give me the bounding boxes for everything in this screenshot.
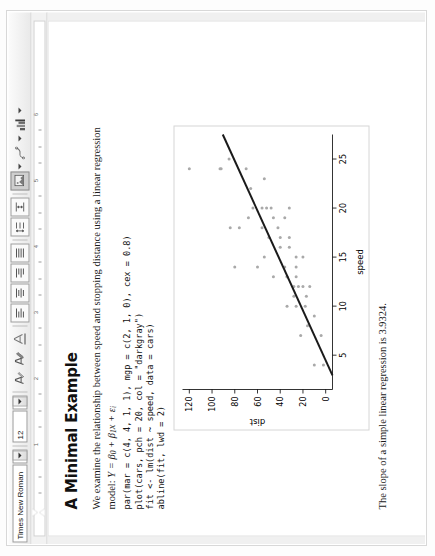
data-point — [294, 256, 297, 259]
data-point — [304, 295, 307, 298]
ruler-tick — [38, 130, 41, 131]
document-canvas[interactable]: A Minimal Example We examine the relatio… — [47, 12, 425, 544]
data-point — [260, 207, 263, 210]
figure-container: 510152025020406080100120speeddist — [173, 47, 369, 509]
data-point — [233, 265, 236, 268]
paragraph-spacing-icon — [14, 201, 25, 212]
ruler-tick — [38, 295, 41, 296]
data-point — [303, 305, 306, 308]
insert-image-dropdown-caret[interactable] — [18, 163, 21, 169]
ruler-tick — [38, 163, 41, 164]
x-tick-label: 25 — [338, 154, 347, 164]
horizontal-ruler[interactable]: 123456 — [31, 12, 47, 544]
ruler-number: 1 — [32, 442, 38, 445]
align-justify-button[interactable] — [10, 243, 29, 262]
left-indent-marker[interactable] — [39, 508, 44, 516]
word-processor-window: Times New Roman 12 — [8, 12, 425, 544]
highlight-color-button[interactable] — [10, 349, 29, 368]
insert-image-button[interactable] — [10, 171, 29, 190]
ruler-tick — [38, 262, 41, 263]
insert-shape-button[interactable] — [10, 143, 29, 162]
insert-shape-dropdown-caret[interactable] — [18, 135, 21, 141]
data-point — [249, 187, 252, 190]
ruler-number: 2 — [32, 376, 38, 379]
insert-shape-icon — [13, 146, 26, 159]
align-right-icon — [14, 267, 25, 278]
align-center-icon — [14, 287, 25, 298]
font-size-dropdown-arrow[interactable] — [12, 395, 27, 409]
insert-image-icon — [13, 175, 25, 187]
y-tick-label: 0 — [321, 397, 330, 402]
shading-button[interactable] — [10, 329, 29, 348]
ruler-tick — [38, 328, 41, 329]
ruler-tick — [38, 427, 41, 428]
data-point — [294, 305, 297, 308]
code-block[interactable]: par(mar = c(4, 4, 1, 1), mgp = c(2, 1, 0… — [121, 47, 166, 509]
data-point — [237, 226, 240, 229]
data-point — [271, 216, 274, 219]
data-point — [287, 207, 290, 210]
document-page[interactable]: A Minimal Example We examine the relatio… — [47, 20, 425, 536]
font-name-combo[interactable]: Times New Roman — [12, 464, 27, 542]
insert-chart-dropdown-caret[interactable] — [18, 107, 21, 113]
data-point — [276, 226, 279, 229]
ruler-tick — [38, 460, 41, 461]
data-point — [301, 256, 304, 259]
data-point — [283, 216, 286, 219]
intro-paragraph: We examine the relationship between spee… — [89, 47, 102, 509]
data-point — [251, 207, 254, 210]
font-size-value: 12 — [15, 430, 24, 439]
insert-chart-icon — [13, 118, 26, 131]
chevron-down-icon — [12, 450, 27, 460]
y-tick-label: 100 — [208, 397, 217, 412]
paragraph-spacing-button[interactable] — [10, 197, 29, 216]
data-point — [299, 334, 302, 337]
regression-plot-svg: 510152025020406080100120speeddist — [174, 127, 368, 430]
align-center-button[interactable] — [10, 283, 29, 302]
data-point — [312, 314, 315, 317]
data-point — [294, 265, 297, 268]
data-point — [308, 285, 311, 288]
y-axis-label: dist — [249, 417, 265, 427]
font-size-combo[interactable]: 12 — [12, 410, 27, 442]
x-axis-label: speed — [354, 249, 364, 275]
ruler-tick — [38, 410, 41, 411]
data-point — [262, 256, 265, 259]
model-formula: Y = β0 + β1x + εi — [105, 405, 116, 477]
data-point — [321, 363, 324, 366]
ruler-tick — [38, 394, 41, 395]
insert-chart-button[interactable] — [10, 115, 29, 134]
highlight-color-icon — [12, 351, 27, 366]
toolbar-separator — [12, 391, 27, 392]
toolbar-separator — [12, 239, 27, 240]
scatter-points — [187, 158, 324, 367]
data-point — [278, 236, 281, 239]
data-point — [278, 246, 281, 249]
font-name-dropdown-arrow[interactable] — [12, 449, 27, 463]
data-point — [227, 158, 230, 161]
toolbar-separator — [12, 325, 27, 326]
y-tick-label: 60 — [253, 397, 262, 407]
text-color-icon — [12, 371, 27, 386]
screenshot-root: Times New Roman 12 — [0, 0, 435, 556]
data-point — [271, 275, 274, 278]
ruler-tick — [38, 196, 41, 197]
ruler-number: 5 — [32, 178, 38, 181]
data-point — [294, 275, 297, 278]
chevron-down-icon — [12, 396, 27, 406]
x-tick-label: 20 — [338, 203, 347, 213]
x-tick-label: 5 — [338, 353, 347, 358]
model-line: model: Y = β0 + β1x + εi — [104, 47, 118, 509]
align-left-button[interactable] — [10, 303, 29, 322]
text-color-button[interactable] — [10, 369, 29, 388]
line-spacing-button[interactable] — [10, 217, 29, 236]
data-point — [287, 236, 290, 239]
data-point — [301, 285, 304, 288]
align-right-button[interactable] — [10, 263, 29, 282]
toolbar-separator — [12, 193, 27, 194]
data-point — [262, 177, 265, 180]
data-point — [306, 324, 309, 327]
toolbar-separator — [12, 445, 27, 446]
first-line-indent-marker[interactable] — [32, 508, 37, 516]
data-point — [256, 265, 259, 268]
